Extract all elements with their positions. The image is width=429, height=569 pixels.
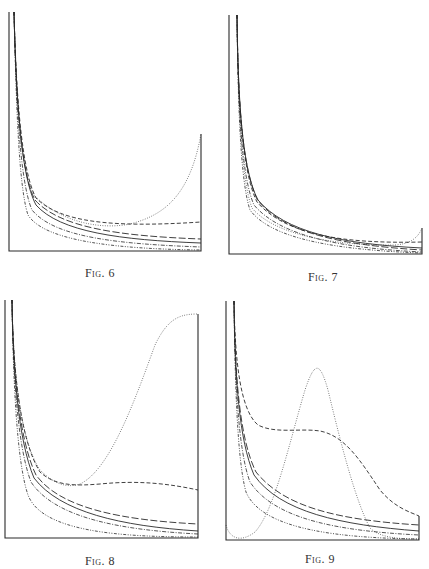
fig7-plot	[229, 15, 422, 254]
fig8-plot	[5, 300, 198, 538]
fig9-curve-longdash	[234, 301, 419, 525]
fig8-curve-dashdotdot	[12, 300, 198, 537]
fig7-curve-dashed	[237, 15, 422, 242]
fig9-curve-solid	[234, 301, 419, 531]
fig7-curve-dotted	[237, 15, 422, 245]
fig7-curve-dashdotdot	[237, 15, 422, 253]
fig6-curve-dashed	[14, 12, 201, 224]
fig6-curve-solid	[14, 12, 201, 243]
fig7-curve-longdash	[237, 15, 422, 250]
fig8-curve-solid	[12, 300, 198, 531]
fig9-plot	[226, 301, 419, 540]
fig6-curve-dashdotdot	[14, 12, 201, 250]
fig9-curve-dashdot	[234, 301, 419, 535]
fig9-curve-dashdotdot	[234, 301, 419, 539]
fig8-curve-longdash	[12, 300, 198, 524]
figure-page	[0, 0, 429, 569]
fig6-curve-dotted	[14, 12, 201, 226]
fig9-caption: Fig. 9	[305, 552, 335, 567]
fig8-axes	[5, 300, 198, 538]
fig8-curve-dashdot	[12, 300, 198, 534]
fig6-plot	[9, 12, 201, 251]
fig6-curve-dashdot	[14, 12, 201, 247]
fig6-axes	[9, 12, 201, 251]
fig7-curve-dashdot	[237, 15, 422, 252]
fig8-caption: Fig. 8	[85, 554, 115, 569]
fig8-curve-dotted	[12, 300, 198, 486]
fig7-curve-solid	[237, 15, 422, 248]
fig9-curve-dotted	[226, 368, 419, 539]
fig6-curve-longdash	[14, 12, 201, 239]
fig8-curve-dashed	[12, 300, 198, 490]
fig7-caption: Fig. 7	[308, 270, 338, 285]
fig6-caption: Fig. 6	[85, 266, 115, 281]
fig9-axes	[226, 301, 419, 540]
